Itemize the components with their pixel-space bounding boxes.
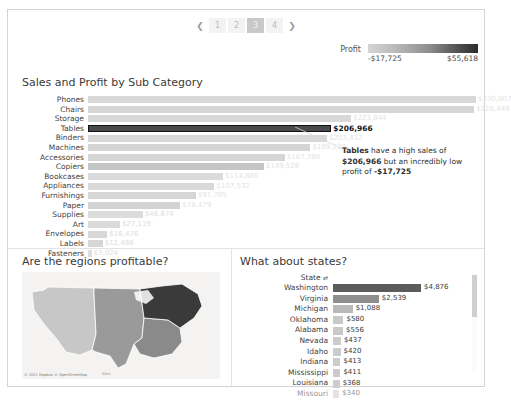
state-row[interactable]: Louisiana$368 <box>240 378 480 389</box>
bar-fill[interactable] <box>88 163 264 170</box>
state-row[interactable]: Virginia$2,539 <box>240 294 480 305</box>
bar-fill[interactable] <box>88 173 223 180</box>
bar-value-label: $46,674 <box>145 210 174 219</box>
state-bar-track: $411 <box>333 369 480 377</box>
bar-fill[interactable] <box>88 144 310 151</box>
bar-fill[interactable] <box>88 154 285 161</box>
state-name-label: Louisiana <box>240 378 333 389</box>
bar-row[interactable]: Paper$78,479 <box>22 201 472 211</box>
state-bar-fill[interactable] <box>333 295 379 303</box>
bar-fill[interactable] <box>88 211 143 218</box>
state-value-label: $580 <box>346 315 364 325</box>
bar-fill[interactable] <box>88 115 351 122</box>
profit-legend[interactable]: Profit -$17,725 $55,618 <box>340 44 478 63</box>
state-name-label: Alabama <box>240 325 333 336</box>
page-button-1[interactable]: 1 <box>209 18 226 33</box>
state-value-label: $437 <box>344 336 362 346</box>
state-bar-fill[interactable] <box>333 358 340 366</box>
state-bar-fill[interactable] <box>333 390 339 398</box>
states-scrollbar-thumb[interactable] <box>472 275 477 317</box>
bar-fill[interactable] <box>88 106 474 113</box>
state-row[interactable]: Oklahoma$580 <box>240 315 480 326</box>
bar-fill[interactable] <box>88 192 196 199</box>
chevron-left-icon[interactable]: ❮ <box>193 19 207 33</box>
state-row[interactable]: Washington$4,876 <box>240 283 480 294</box>
state-name-label: Oklahoma <box>240 315 333 326</box>
bar-track: $12,486 <box>88 240 472 247</box>
bar-fill[interactable] <box>88 202 180 209</box>
bar-category-label: Supplies <box>22 210 88 220</box>
state-row[interactable]: Michigan$1,088 <box>240 304 480 315</box>
bar-fill[interactable] <box>88 96 476 103</box>
bar-category-label: Chairs <box>22 105 88 115</box>
state-value-label: $368 <box>343 379 361 389</box>
state-name-label: Michigan <box>240 304 333 315</box>
regions-map[interactable]: © 2021 Mapbox © OpenStreetMap 50mi <box>22 272 220 379</box>
state-row[interactable]: Alabama$556 <box>240 325 480 336</box>
state-bar-fill[interactable] <box>333 284 421 292</box>
bar-fill[interactable] <box>88 231 107 238</box>
bar-value-label: $149,528 <box>266 162 299 171</box>
state-bar-fill[interactable] <box>333 327 343 335</box>
annotation-bold-1: Tables <box>342 146 369 155</box>
state-bar-fill[interactable] <box>333 337 341 345</box>
bar-value-label: $114,880 <box>225 172 258 181</box>
bar-value-label: $167,380 <box>287 153 320 162</box>
dashboard-container: ❮ 1 2 3 4 ❯ Profit -$17,725 $55,618 Sale… <box>7 9 485 387</box>
state-row[interactable]: Idaho$420 <box>240 347 480 358</box>
state-bar-track: $340 <box>333 390 480 398</box>
bar-track: $203,412 <box>88 135 472 142</box>
bar-fill[interactable] <box>88 221 120 228</box>
bar-fill[interactable] <box>88 135 327 142</box>
bar-row[interactable]: Supplies$46,674 <box>22 210 472 220</box>
states-bar-table[interactable]: State ⇄ Washington$4,876Virginia$2,539Mi… <box>240 272 480 400</box>
pagination[interactable]: ❮ 1 2 3 4 ❯ <box>8 18 484 33</box>
state-bar-fill[interactable] <box>333 305 353 313</box>
states-table-header[interactable]: State ⇄ <box>240 272 480 283</box>
state-value-label: $420 <box>344 347 362 357</box>
bar-category-label: Accessories <box>22 153 88 163</box>
bar-category-label: Copiers <box>22 162 88 172</box>
state-bar-fill[interactable] <box>333 369 340 377</box>
bar-category-label: Binders <box>22 133 88 143</box>
bar-category-label: Phones <box>22 95 88 105</box>
annotation-text-1: have a high sales of <box>369 146 447 155</box>
bar-row[interactable]: Binders$203,412 <box>22 133 472 143</box>
bar-row[interactable]: Furnishings$91,705 <box>22 191 472 201</box>
state-row[interactable]: Mississippi$411 <box>240 368 480 379</box>
states-scrollbar[interactable] <box>472 275 477 373</box>
bar-category-label: Bookcases <box>22 172 88 182</box>
bar-row[interactable]: Storage$223,844 <box>22 114 472 124</box>
bar-row[interactable]: Appliances$107,532 <box>22 181 472 191</box>
page-button-4[interactable]: 4 <box>266 18 283 33</box>
bar-row[interactable]: Envelopes$16,476 <box>22 229 472 239</box>
bar-category-label: Envelopes <box>22 229 88 239</box>
bar-row[interactable]: Chairs$328,449 <box>22 105 472 115</box>
state-value-label: $411 <box>343 368 361 378</box>
bar-category-label: Storage <box>22 114 88 124</box>
chevron-right-icon[interactable]: ❯ <box>285 19 299 33</box>
state-bar-fill[interactable] <box>333 348 341 356</box>
state-bar-fill[interactable] <box>333 316 343 324</box>
bar-row[interactable]: Phones$330,007 <box>22 95 472 105</box>
legend-body: -$17,725 $55,618 <box>368 44 478 63</box>
page-button-2[interactable]: 2 <box>228 18 245 33</box>
bar-track: $78,479 <box>88 202 472 209</box>
state-name-label: Indiana <box>240 357 333 368</box>
bar-value-label: $328,449 <box>476 105 509 114</box>
bar-row[interactable]: Art$27,119 <box>22 220 472 230</box>
state-bar-track: $437 <box>333 337 480 345</box>
state-row[interactable]: Indiana$413 <box>240 357 480 368</box>
bar-category-label: Tables <box>22 124 88 134</box>
bar-fill[interactable] <box>88 240 103 247</box>
state-row[interactable]: Nevada$437 <box>240 336 480 347</box>
page-button-3[interactable]: 3 <box>247 18 264 33</box>
sort-icon[interactable]: ⇄ <box>323 274 328 281</box>
state-row[interactable]: Missouri$340 <box>240 389 480 400</box>
state-bar-fill[interactable] <box>333 380 340 388</box>
bar-fill[interactable] <box>88 183 214 190</box>
bar-track: $107,532 <box>88 183 472 190</box>
legend-min-label: -$17,725 <box>368 54 402 63</box>
state-bar-track: $2,539 <box>333 295 480 303</box>
bar-row[interactable]: Tables$206,966 <box>22 124 472 134</box>
